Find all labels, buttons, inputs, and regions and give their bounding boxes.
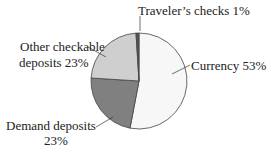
label-demand-line2: 23%	[44, 134, 68, 148]
label-currency: Currency 53%	[191, 59, 266, 73]
leader-demand	[96, 117, 113, 127]
label-travelers-checks: Traveler’s checks 1%	[138, 4, 250, 18]
label-other-checkable-line2: deposits 23%	[19, 56, 89, 70]
label-other-checkable-line1: Other checkable	[20, 40, 105, 54]
slice-demand-deposits	[91, 78, 139, 128]
label-demand-line1: Demand deposits	[6, 119, 96, 133]
